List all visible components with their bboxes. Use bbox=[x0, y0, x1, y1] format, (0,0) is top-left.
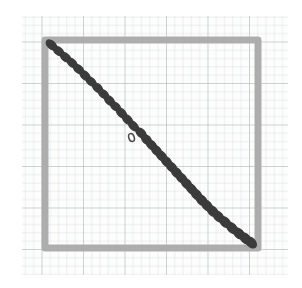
sketch-illustration bbox=[0, 0, 302, 288]
sketch-canvas bbox=[0, 0, 302, 288]
